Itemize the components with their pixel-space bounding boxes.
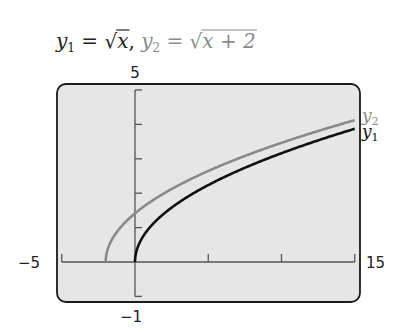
y1-name: y — [55, 29, 68, 53]
y2-subscript: 2 — [152, 41, 160, 55]
ymax-label: 5 — [130, 64, 140, 82]
xmax-label: 15 — [366, 254, 385, 272]
chart-title: y1 = √x, y2 = √x + 2 — [55, 29, 256, 55]
ymin-label: −1 — [120, 308, 142, 326]
xmin-label: −5 — [18, 254, 40, 272]
graph-figure: y1 = √x, y2 = √x + 2 5 y2 y1 −5 15 −1 — [0, 0, 405, 333]
y1-expression: x — [117, 29, 128, 53]
viewing-window-frame — [57, 84, 360, 302]
y2-expression: x + 2 — [202, 29, 255, 53]
y1-subscript: 1 — [67, 41, 75, 55]
y2-name: y — [140, 29, 153, 53]
